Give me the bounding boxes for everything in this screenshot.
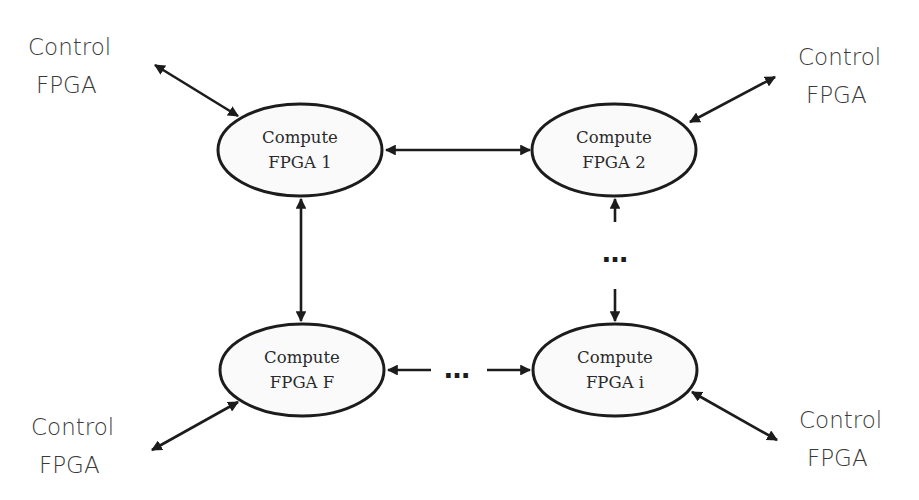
control-node-bottom-right: Control FPGA xyxy=(799,407,882,471)
fpga-topology-diagram: … … Compute FPGA 1 Compute FPGA 2 Comput… xyxy=(0,0,919,500)
control-label-line1: Control xyxy=(799,407,882,433)
edge-ctrl-bl-fpgaF xyxy=(152,402,238,450)
control-node-bottom-left: Control FPGA xyxy=(31,414,114,478)
control-node-top-left: Control FPGA xyxy=(28,34,111,98)
node-label-line1: Compute xyxy=(262,128,338,147)
node-label-line1: Compute xyxy=(576,128,652,147)
edge-ctrl-tl-fpga1 xyxy=(155,65,238,116)
control-label-line2: FPGA xyxy=(39,452,100,478)
control-label-line2: FPGA xyxy=(807,445,868,471)
compute-node-fpga1: Compute FPGA 1 xyxy=(218,104,382,196)
control-label-line2: FPGA xyxy=(806,82,867,108)
node-label-line2: FPGA 2 xyxy=(582,153,645,172)
control-label-line1: Control xyxy=(28,34,111,60)
compute-node-fpgai: Compute FPGA i xyxy=(533,324,697,416)
node-label-line1: Compute xyxy=(577,348,653,367)
horizontal-ellipsis: … xyxy=(444,354,470,384)
edge-ctrl-br-fpgai xyxy=(692,392,777,440)
edge-ctrl-tr-fpga2 xyxy=(690,77,775,122)
node-label-line2: FPGA F xyxy=(270,373,334,392)
compute-node-fpgaF: Compute FPGA F xyxy=(220,324,384,416)
control-node-top-right: Control FPGA xyxy=(798,44,881,108)
node-label-line2: FPGA 1 xyxy=(268,153,331,172)
control-label-line2: FPGA xyxy=(36,72,97,98)
control-label-line1: Control xyxy=(31,414,114,440)
node-label-line2: FPGA i xyxy=(586,373,644,392)
compute-node-fpga2: Compute FPGA 2 xyxy=(532,104,696,196)
node-label-line1: Compute xyxy=(264,348,340,367)
control-label-line1: Control xyxy=(798,44,881,70)
vertical-ellipsis: … xyxy=(602,238,628,268)
